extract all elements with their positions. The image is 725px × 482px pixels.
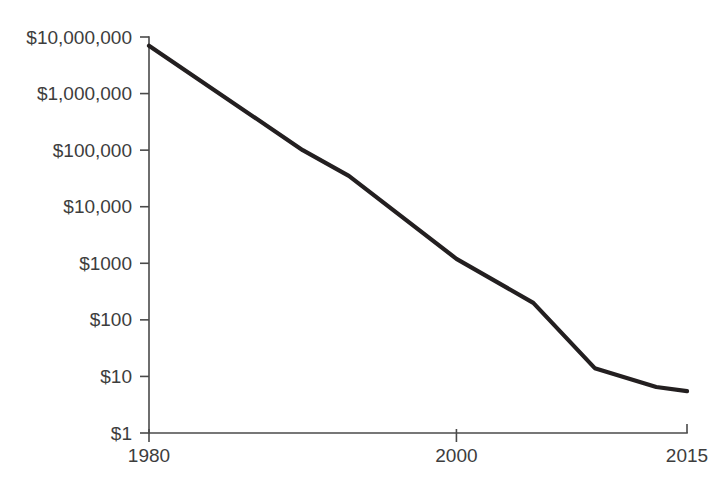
- data-line-cost: [149, 46, 687, 391]
- y-tick-label-2: $100,000: [53, 140, 132, 161]
- y-tick-label-7: $1: [111, 423, 132, 444]
- x-tick-label-0: 1980: [128, 445, 170, 466]
- x-tick-label-1: 2000: [435, 445, 477, 466]
- y-tick-label-4: $1000: [79, 253, 132, 274]
- y-tick-label-3: $10,000: [63, 196, 132, 217]
- x-axis-tick-labels: 198020002015: [128, 445, 708, 466]
- data-series-group: [149, 46, 687, 391]
- line-chart: $10,000,000$1,000,000$100,000$10,000$100…: [0, 0, 725, 482]
- x-axis: 198020002015: [128, 424, 708, 466]
- y-axis: $10,000,000$1,000,000$100,000$10,000$100…: [26, 27, 149, 444]
- y-tick-label-5: $100: [90, 309, 132, 330]
- y-tick-label-1: $1,000,000: [37, 83, 132, 104]
- y-tick-label-6: $10: [100, 366, 132, 387]
- chart-container: $10,000,000$1,000,000$100,000$10,000$100…: [0, 0, 725, 482]
- y-axis-ticks: [140, 37, 149, 433]
- x-tick-label-2: 2015: [666, 445, 708, 466]
- y-tick-label-0: $10,000,000: [26, 27, 132, 48]
- y-axis-tick-labels: $10,000,000$1,000,000$100,000$10,000$100…: [26, 27, 132, 444]
